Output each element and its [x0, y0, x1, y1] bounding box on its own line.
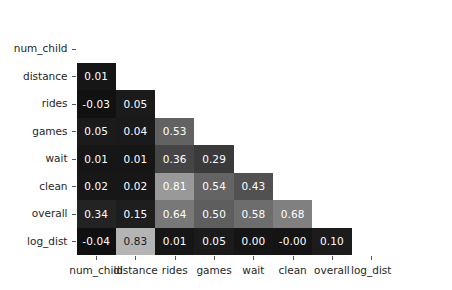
heatmap-cell: 0.04 [116, 118, 155, 146]
heatmap-cell: 0.68 [273, 200, 312, 228]
heatmap-cell: -0.00 [273, 228, 312, 256]
heatmap-cell: 0.05 [77, 118, 116, 146]
correlation-heatmap-figure: 0.01-0.030.050.050.040.530.010.010.360.2… [0, 0, 452, 290]
y-axis-tick-label-num_child: num_child [0, 43, 68, 54]
x-axis-tick-mark [96, 256, 97, 260]
heatmap-cell: 0.02 [116, 173, 155, 201]
y-axis-tick-label-wait: wait [0, 153, 68, 164]
x-axis-tick-mark [214, 256, 215, 260]
y-axis-tick-mark [72, 214, 76, 215]
heatmap-cell: 0.36 [155, 145, 194, 173]
heatmap-cell: 0.83 [116, 228, 155, 256]
x-axis-tick-label-log_dist: log_dist [337, 265, 406, 276]
heatmap-cell: 0.02 [77, 173, 116, 201]
heatmap-cell: 0.54 [194, 173, 233, 201]
y-axis-tick-label-log_dist: log_dist [0, 236, 68, 247]
y-axis-tick-mark [72, 131, 76, 132]
heatmap-cell: 0.00 [234, 228, 273, 256]
heatmap-cell: 0.50 [194, 200, 233, 228]
y-axis-tick-label-distance: distance [0, 71, 68, 82]
y-axis-tick-mark [72, 241, 76, 242]
y-axis-tick-label-games: games [0, 126, 68, 137]
y-axis-tick-label-overall: overall [0, 208, 68, 219]
y-axis-tick-mark [72, 104, 76, 105]
heatmap-cell: 0.01 [116, 145, 155, 173]
heatmap-cell: 0.34 [77, 200, 116, 228]
x-axis-tick-mark [371, 256, 372, 260]
heatmap-cell: 0.15 [116, 200, 155, 228]
heatmap-cell: 0.43 [234, 173, 273, 201]
heatmap-cell: 0.01 [155, 228, 194, 256]
x-axis-tick-mark [293, 256, 294, 260]
heatmap-cell: 0.01 [77, 145, 116, 173]
x-axis-tick-mark [175, 256, 176, 260]
heatmap-cell: 0.64 [155, 200, 194, 228]
heatmap-cell: 0.58 [234, 200, 273, 228]
heatmap-cell: 0.10 [312, 228, 351, 256]
y-axis-tick-mark [72, 76, 76, 77]
heatmap-cell: 0.29 [194, 145, 233, 173]
x-axis-tick-mark [332, 256, 333, 260]
heatmap-cell: 0.01 [77, 63, 116, 91]
x-axis-tick-mark [135, 256, 136, 260]
y-axis-tick-label-clean: clean [0, 181, 68, 192]
y-axis-tick-mark [72, 159, 76, 160]
heatmap-cell: 0.53 [155, 118, 194, 146]
heatmap-cell: 0.05 [194, 228, 233, 256]
heatmap-cell: -0.04 [77, 228, 116, 256]
y-axis-tick-label-rides: rides [0, 98, 68, 109]
x-axis-tick-mark [253, 256, 254, 260]
heatmap-cell: 0.81 [155, 173, 194, 201]
y-axis-tick-mark [72, 49, 76, 50]
heatmap-cell: -0.03 [77, 90, 116, 118]
heatmap-cell: 0.05 [116, 90, 155, 118]
y-axis-tick-mark [72, 186, 76, 187]
